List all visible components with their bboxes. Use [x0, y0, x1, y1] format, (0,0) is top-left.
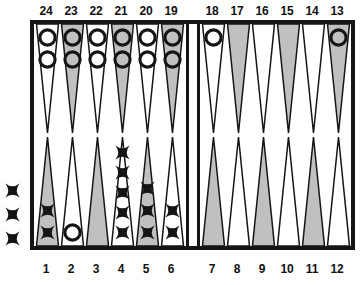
point-triangle-12 — [326, 135, 351, 246]
checker-stack-2[interactable] — [60, 135, 85, 246]
quadrant-top-right — [200, 24, 351, 135]
point-label-top-20: 20 — [133, 4, 159, 18]
checker-stack-22[interactable] — [85, 24, 110, 135]
point-15[interactable] — [276, 24, 301, 135]
point-label-bottom-8: 8 — [224, 262, 250, 276]
point-20[interactable] — [135, 24, 160, 135]
point-triangle-9 — [251, 135, 276, 246]
checker-x-point-4[interactable] — [112, 222, 133, 243]
checker-o-point-19[interactable] — [162, 49, 183, 70]
point-7[interactable] — [201, 135, 226, 246]
checker-o-point-22[interactable] — [87, 49, 108, 70]
point-label-bottom-3: 3 — [83, 262, 109, 276]
point-triangle-16 — [251, 24, 276, 135]
point-8[interactable] — [226, 135, 251, 246]
point-10[interactable] — [276, 135, 301, 246]
point-triangle-10 — [276, 135, 301, 246]
point-22[interactable] — [85, 24, 110, 135]
offboard-checker-x-3[interactable] — [2, 228, 23, 249]
point-label-top-16: 16 — [249, 4, 275, 18]
checker-x-point-4[interactable] — [112, 202, 133, 223]
point-triangle-3 — [85, 135, 110, 246]
checker-x-point-6[interactable] — [162, 222, 183, 243]
checker-x-point-1[interactable] — [37, 200, 58, 221]
checker-x-point-4[interactable] — [112, 182, 133, 203]
quadrant-bottom-right — [200, 135, 351, 246]
game-board — [30, 20, 355, 250]
checker-stack-23[interactable] — [60, 24, 85, 135]
checker-stack-19[interactable] — [160, 24, 185, 135]
point-4[interactable] — [110, 135, 135, 246]
checker-stack-1[interactable] — [35, 135, 60, 246]
checker-o-point-21[interactable] — [112, 27, 133, 48]
point-label-bottom-2: 2 — [58, 262, 84, 276]
checker-o-point-23[interactable] — [62, 49, 83, 70]
checker-o-point-19[interactable] — [162, 27, 183, 48]
point-12[interactable] — [326, 135, 351, 246]
point-23[interactable] — [60, 24, 85, 135]
checker-x-point-6[interactable] — [162, 200, 183, 221]
point-19[interactable] — [160, 24, 185, 135]
checker-o-point-24[interactable] — [37, 27, 58, 48]
point-17[interactable] — [226, 24, 251, 135]
checker-o-point-13[interactable] — [328, 27, 349, 48]
point-triangle-15 — [276, 24, 301, 135]
point-16[interactable] — [251, 24, 276, 135]
checker-stack-6[interactable] — [160, 135, 185, 246]
point-triangle-8 — [226, 135, 251, 246]
board-bar — [186, 24, 200, 246]
checker-stack-4[interactable] — [110, 135, 135, 246]
checker-x-point-4[interactable] — [112, 142, 133, 163]
checker-x-point-5[interactable] — [137, 222, 158, 243]
checker-o-point-24[interactable] — [37, 49, 58, 70]
point-label-top-23: 23 — [58, 4, 84, 18]
quadrant-bottom-left — [34, 135, 186, 246]
point-label-top-13: 13 — [324, 4, 350, 18]
checker-stack-13[interactable] — [326, 24, 351, 135]
point-label-top-24: 24 — [33, 4, 59, 18]
point-1[interactable] — [35, 135, 60, 246]
checker-stack-24[interactable] — [35, 24, 60, 135]
point-label-top-18: 18 — [199, 4, 225, 18]
checker-o-point-20[interactable] — [137, 27, 158, 48]
offboard-checker-x-1[interactable] — [2, 180, 23, 201]
point-label-bottom-7: 7 — [199, 262, 225, 276]
point-triangle-11 — [301, 135, 326, 246]
checker-o-point-22[interactable] — [87, 27, 108, 48]
checker-o-point-20[interactable] — [137, 49, 158, 70]
point-5[interactable] — [135, 135, 160, 246]
point-21[interactable] — [110, 24, 135, 135]
point-label-bottom-10: 10 — [274, 262, 300, 276]
point-label-top-17: 17 — [224, 4, 250, 18]
point-3[interactable] — [85, 135, 110, 246]
point-2[interactable] — [60, 135, 85, 246]
checker-x-point-5[interactable] — [137, 178, 158, 199]
point-label-bottom-6: 6 — [158, 262, 184, 276]
point-18[interactable] — [201, 24, 226, 135]
checker-stack-21[interactable] — [110, 24, 135, 135]
point-label-top-15: 15 — [274, 4, 300, 18]
checker-stack-18[interactable] — [201, 24, 226, 135]
point-11[interactable] — [301, 135, 326, 246]
point-24[interactable] — [35, 24, 60, 135]
checker-x-point-1[interactable] — [37, 222, 58, 243]
point-label-top-22: 22 — [83, 4, 109, 18]
checker-o-point-18[interactable] — [203, 27, 224, 48]
checker-x-point-4[interactable] — [112, 162, 133, 183]
checker-o-point-2[interactable] — [62, 222, 83, 243]
checker-x-point-5[interactable] — [137, 200, 158, 221]
point-triangle-7 — [201, 135, 226, 246]
checker-stack-20[interactable] — [135, 24, 160, 135]
point-9[interactable] — [251, 135, 276, 246]
point-14[interactable] — [301, 24, 326, 135]
offboard-checker-x-2[interactable] — [2, 204, 23, 225]
point-label-top-14: 14 — [299, 4, 325, 18]
point-label-bottom-11: 11 — [299, 262, 325, 276]
checker-o-point-23[interactable] — [62, 27, 83, 48]
checker-o-point-21[interactable] — [112, 49, 133, 70]
point-label-top-19: 19 — [158, 4, 184, 18]
point-6[interactable] — [160, 135, 185, 246]
checker-stack-5[interactable] — [135, 135, 160, 246]
point-13[interactable] — [326, 24, 351, 135]
quadrant-top-left — [34, 24, 186, 135]
